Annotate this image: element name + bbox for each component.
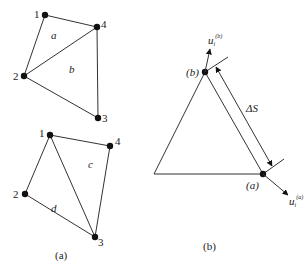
edge-1-3	[50, 135, 95, 237]
node-1	[42, 12, 48, 18]
crack-triangle-figure: ΔS (b) (a) ui(b) ui(a)	[154, 33, 303, 208]
node-4-label: 4	[115, 135, 121, 147]
distance-label: ΔS	[245, 102, 258, 114]
node-3-label: 3	[102, 112, 108, 124]
node-2	[21, 73, 27, 79]
bottom-mesh: 1 4 2 3 c d	[13, 127, 121, 248]
top-mesh: 1 4 2 3 a b	[13, 8, 108, 124]
node-1	[47, 132, 53, 138]
edge-4-3	[95, 146, 110, 237]
node-3	[95, 115, 101, 121]
vector-top-label: ui(b)	[208, 33, 222, 47]
node-3-label: 3	[98, 236, 104, 248]
edge-1-2	[24, 15, 45, 76]
edge-2-4	[24, 27, 97, 76]
element-b-label: b	[69, 63, 75, 75]
point-b-label: (b)	[186, 66, 199, 79]
node-4	[94, 24, 100, 30]
displacement-vector-top-arrow-icon	[205, 49, 210, 72]
edge-4-3	[97, 27, 98, 118]
node-2-label: 2	[13, 188, 19, 200]
caption-a: (a)	[55, 249, 68, 262]
element-c-label: c	[88, 158, 93, 170]
extension-line-bottom	[263, 159, 284, 174]
point-a-label: (a)	[246, 179, 259, 192]
triangle-left-edge	[154, 72, 205, 174]
element-d-label: d	[51, 202, 57, 214]
edge-2-3	[25, 194, 95, 237]
element-a-label: a	[51, 29, 57, 41]
edge-1-2	[25, 135, 50, 194]
node-1-label: 1	[39, 127, 45, 139]
caption-b: (b)	[203, 240, 216, 253]
diagram-canvas: 1 4 2 3 a b 1 4 2 3 c d (a) ΔS	[0, 0, 308, 269]
edge-2-3	[24, 76, 98, 118]
triangle-right-edge	[205, 72, 263, 174]
edge-1-4	[50, 135, 110, 146]
node-2	[22, 191, 28, 197]
node-1-label: 1	[34, 8, 40, 20]
node-4	[107, 143, 113, 149]
node-2-label: 2	[13, 70, 19, 82]
edge-1-4	[45, 15, 97, 27]
node-4-label: 4	[101, 18, 107, 30]
distance-dimension-line	[216, 67, 272, 166]
extension-line-top	[205, 57, 228, 72]
displacement-vector-bottom-arrow-icon	[263, 174, 288, 195]
vector-bottom-label: ui(a)	[289, 194, 303, 208]
